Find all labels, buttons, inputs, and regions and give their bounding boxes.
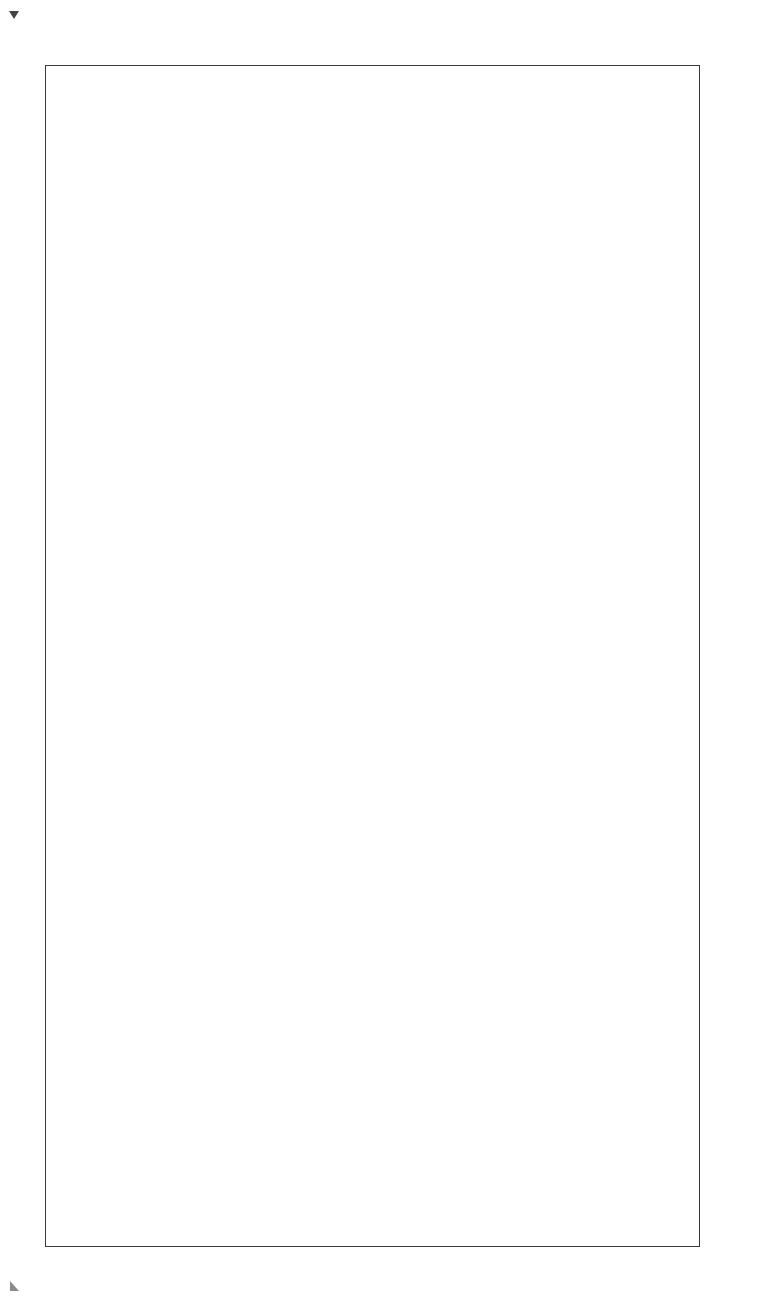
plot-area xyxy=(45,65,700,1247)
annotation-layer xyxy=(46,66,699,1246)
stockcharts-chart xyxy=(0,0,760,1299)
series-legend xyxy=(8,1277,22,1292)
copyright-notice xyxy=(8,8,21,19)
up-arrow-icon xyxy=(9,11,19,19)
price-axis xyxy=(45,1251,700,1299)
flag-marker-icon xyxy=(10,1280,20,1291)
rotated-chart-stage xyxy=(0,0,760,1299)
year-axis xyxy=(703,65,723,1247)
chart-header xyxy=(8,1277,22,1292)
